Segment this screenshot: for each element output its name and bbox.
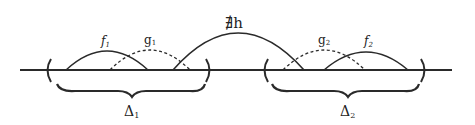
- delta2-label: Δ2: [340, 103, 355, 120]
- delta2-brace: [272, 84, 419, 97]
- g2-label: g2: [318, 33, 330, 47]
- f2-label: f2: [363, 34, 373, 49]
- g1-label: g1: [144, 33, 156, 47]
- f2-arc: [324, 52, 408, 70]
- h-arc: [173, 33, 304, 70]
- delta1-label: Δ1: [124, 103, 139, 120]
- delta1-brace: [57, 84, 205, 97]
- h-label: ∄h: [225, 14, 243, 32]
- f1-label: f1: [100, 34, 110, 49]
- diagram-canvas: f1 g1 ∄h g2 f2 Δ1 Δ2: [0, 0, 475, 125]
- f1-arc: [66, 51, 148, 70]
